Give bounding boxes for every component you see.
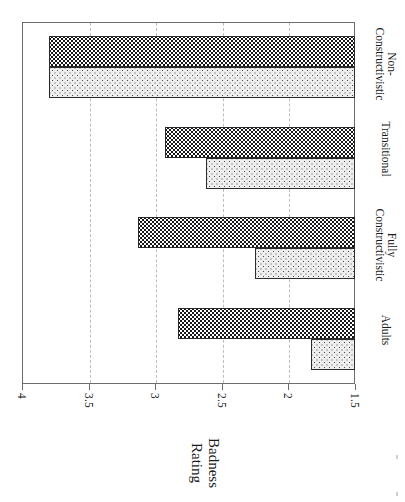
tick-mark-1	[89, 384, 90, 390]
tick-mark-4	[288, 384, 289, 390]
category-label-line1: Transitional	[380, 121, 392, 176]
scan-speck	[396, 492, 398, 496]
tick-label-1: 3.5	[82, 393, 94, 408]
category-label-line2: Constructivistic	[374, 16, 386, 112]
category-label-3: Adults	[380, 282, 392, 378]
bar-chart-figure: 43.532.521.5Non-ConstructivisticTransiti…	[0, 0, 405, 502]
tick-mark-2	[155, 384, 156, 390]
axis-title: BadnessRating	[188, 423, 222, 502]
axis-title-line1: Badness	[206, 438, 222, 488]
category-label-1: Transitional	[380, 101, 392, 197]
tick-label-0: 4	[16, 393, 28, 399]
category-label-line1: Adults	[380, 314, 392, 345]
category-label-line2: Constructivistic	[374, 197, 386, 293]
bar-dark-2	[138, 217, 355, 248]
bar-dark-1	[165, 127, 355, 158]
tick-label-4: 2	[282, 393, 294, 399]
category-label-line1: Non-	[386, 52, 398, 76]
tick-mark-0	[22, 384, 23, 390]
scan-speck	[396, 455, 398, 459]
bar-dark-0	[49, 36, 355, 67]
category-label-2: FullyConstructivistic	[374, 197, 398, 293]
category-label-0: Non-Constructivistic	[374, 16, 398, 112]
axis-title-line2: Rating	[188, 423, 205, 502]
bar-light-2	[255, 248, 355, 279]
tick-mark-5	[355, 384, 356, 390]
bar-light-0	[49, 67, 355, 98]
tick-mark-3	[222, 384, 223, 390]
category-label-line1: Fully	[386, 233, 398, 257]
bar-light-1	[206, 158, 355, 189]
tick-label-3: 2.5	[215, 393, 227, 408]
tick-label-5: 1.5	[349, 393, 361, 408]
tick-label-2: 3	[149, 393, 161, 399]
bar-dark-3	[178, 308, 355, 339]
bar-light-3	[311, 339, 355, 370]
